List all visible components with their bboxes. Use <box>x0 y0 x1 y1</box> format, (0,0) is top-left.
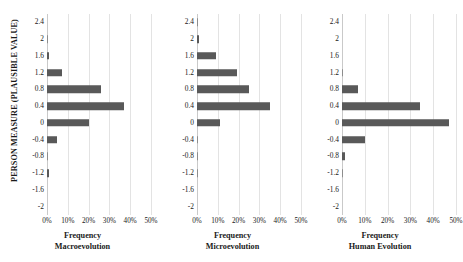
y-tick-label-microevolution--0_4: -0.4 <box>182 136 194 144</box>
y-tick-label-macroevolution--0_8: -0.8 <box>32 152 44 160</box>
x-tick-label-human-evolution-50%: 50% <box>449 217 462 225</box>
gridline-microevolution-50% <box>301 14 302 215</box>
bar-human-evolution--0_8 <box>342 153 345 161</box>
gridline-human-evolution-50% <box>456 14 457 215</box>
x-tick-label-human-evolution-10%: 10% <box>358 217 371 225</box>
y-tick-label-microevolution-0: 0 <box>190 119 194 127</box>
y-tick-label-macroevolution-2: 2 <box>40 35 44 43</box>
y-tick-label-human-evolution-2: 2 <box>335 35 339 43</box>
y-tick-label-microevolution-0_4: 0.4 <box>185 102 194 110</box>
x-tick-label-human-evolution-40%: 40% <box>427 217 440 225</box>
panel-human-evolution: 0%10%20%30%40%50%2.421.61.20.80.40-0.4-0… <box>305 14 455 262</box>
gridline-human-evolution-20% <box>388 14 389 215</box>
x-tick-label-macroevolution-20%: 20% <box>82 217 95 225</box>
y-tick-label-macroevolution-1_2: 1.2 <box>35 69 44 77</box>
x-tick-label-macroevolution-0%: 0% <box>42 217 52 225</box>
bar-microevolution--1_2 <box>197 169 198 177</box>
y-tick-label-microevolution--1_2: -1.2 <box>182 169 194 177</box>
x-tick-label-human-evolution-0%: 0% <box>337 217 347 225</box>
x-tick-label-microevolution-20%: 20% <box>232 217 245 225</box>
x-tick-label-macroevolution-10%: 10% <box>61 217 74 225</box>
y-tick-label-human-evolution--0_8: -0.8 <box>327 152 339 160</box>
y-tick-label-microevolution--2: -2 <box>188 203 194 211</box>
x-axis-sublabel-macroevolution: Macroevolution <box>10 241 155 252</box>
x-axis-sublabel-human-evolution: Human Evolution <box>305 241 455 252</box>
y-tick-label-microevolution--0_8: -0.8 <box>182 152 194 160</box>
bar-human-evolution-0_8 <box>342 86 358 94</box>
gridline-microevolution-10% <box>218 14 219 215</box>
y-tick-label-macroevolution--1_2: -1.2 <box>32 169 44 177</box>
x-tick-label-microevolution-30%: 30% <box>253 217 266 225</box>
panel-macroevolution: 0%10%20%30%40%50%2.421.61.20.80.40-0.4-0… <box>10 14 155 262</box>
gridline-macroevolution-40% <box>130 14 131 215</box>
gridline-human-evolution-40% <box>433 14 434 215</box>
bar-macroevolution--0_4 <box>47 136 57 144</box>
x-axis-caption-human-evolution: Frequency Human Evolution <box>305 230 455 252</box>
bar-microevolution-2 <box>197 35 199 43</box>
bar-macroevolution-0 <box>47 119 89 127</box>
y-tick-label-macroevolution-0_8: 0.8 <box>35 85 44 93</box>
y-tick-label-human-evolution-0_8: 0.8 <box>330 85 339 93</box>
y-tick-label-human-evolution--2: -2 <box>333 203 339 211</box>
bar-human-evolution-1_2 <box>342 69 343 77</box>
gridline-microevolution-20% <box>239 14 240 215</box>
x-axis-caption-macroevolution: Frequency Macroevolution <box>10 230 155 252</box>
bar-microevolution-2_4 <box>197 19 198 27</box>
x-axis-label-human-evolution: Frequency <box>361 231 398 240</box>
plot-area-microevolution: 0%10%20%30%40%50%2.421.61.20.80.40-0.4-0… <box>197 14 301 215</box>
bar-human-evolution-0_4 <box>342 102 420 110</box>
gridline-macroevolution-50% <box>151 14 152 215</box>
gridline-macroevolution-10% <box>68 14 69 215</box>
y-tick-label-microevolution-1_2: 1.2 <box>185 69 194 77</box>
bar-macroevolution--1_2 <box>47 169 49 177</box>
y-tick-label-human-evolution-1_6: 1.6 <box>330 52 339 60</box>
gridline-macroevolution-20% <box>89 14 90 215</box>
x-axis-label-microevolution: Frequency <box>214 231 251 240</box>
x-axis-caption-microevolution: Frequency Microevolution <box>160 230 305 252</box>
bar-human-evolution--1_2 <box>342 169 343 177</box>
x-tick-label-human-evolution-30%: 30% <box>404 217 417 225</box>
x-tick-label-human-evolution-20%: 20% <box>381 217 394 225</box>
bar-microevolution-0 <box>197 119 220 127</box>
gridline-microevolution-0% <box>197 14 198 215</box>
bar-macroevolution-1_2 <box>47 69 62 77</box>
x-axis-sublabel-microevolution: Microevolution <box>160 241 305 252</box>
bar-macroevolution-1_6 <box>47 52 49 60</box>
gridline-human-evolution-10% <box>365 14 366 215</box>
y-tick-label-microevolution-1_6: 1.6 <box>185 52 194 60</box>
y-tick-label-human-evolution-1_2: 1.2 <box>330 69 339 77</box>
bar-microevolution-0_4 <box>197 102 270 110</box>
x-tick-label-macroevolution-30%: 30% <box>103 217 116 225</box>
y-tick-label-macroevolution--2: -2 <box>38 203 44 211</box>
x-tick-label-microevolution-10%: 10% <box>211 217 224 225</box>
y-tick-label-human-evolution-0: 0 <box>335 119 339 127</box>
bar-microevolution--0_8 <box>197 153 198 161</box>
x-tick-label-microevolution-40%: 40% <box>274 217 287 225</box>
bar-microevolution-0_8 <box>197 86 249 94</box>
gridline-human-evolution-30% <box>410 14 411 215</box>
gridline-macroevolution-30% <box>109 14 110 215</box>
bar-macroevolution-2 <box>47 35 48 43</box>
y-tick-label-microevolution-2: 2 <box>190 35 194 43</box>
bar-macroevolution-0_8 <box>47 86 101 94</box>
gridline-macroevolution-0% <box>47 14 48 215</box>
bar-microevolution-1_2 <box>197 69 237 77</box>
y-tick-label-microevolution-2_4: 2.4 <box>185 18 194 26</box>
bar-microevolution--0_4 <box>197 136 198 144</box>
y-tick-label-human-evolution-0_4: 0.4 <box>330 102 339 110</box>
bar-human-evolution--0_4 <box>342 136 365 144</box>
y-tick-label-human-evolution--1_2: -1.2 <box>327 169 339 177</box>
y-tick-label-microevolution-0_8: 0.8 <box>185 85 194 93</box>
y-tick-label-macroevolution-1_6: 1.6 <box>35 52 44 60</box>
y-tick-label-human-evolution-2_4: 2.4 <box>330 18 339 26</box>
y-tick-label-macroevolution-0_4: 0.4 <box>35 102 44 110</box>
bar-macroevolution-0_4 <box>47 102 124 110</box>
y-tick-label-macroevolution-2_4: 2.4 <box>35 18 44 26</box>
y-tick-label-macroevolution--1_6: -1.6 <box>32 186 44 194</box>
bar-microevolution-1_6 <box>197 52 216 60</box>
gridline-human-evolution-0% <box>342 14 343 215</box>
plot-area-macroevolution: 0%10%20%30%40%50%2.421.61.20.80.40-0.4-0… <box>47 14 151 215</box>
x-tick-label-macroevolution-40%: 40% <box>124 217 137 225</box>
x-axis-label-macroevolution: Frequency <box>64 231 101 240</box>
